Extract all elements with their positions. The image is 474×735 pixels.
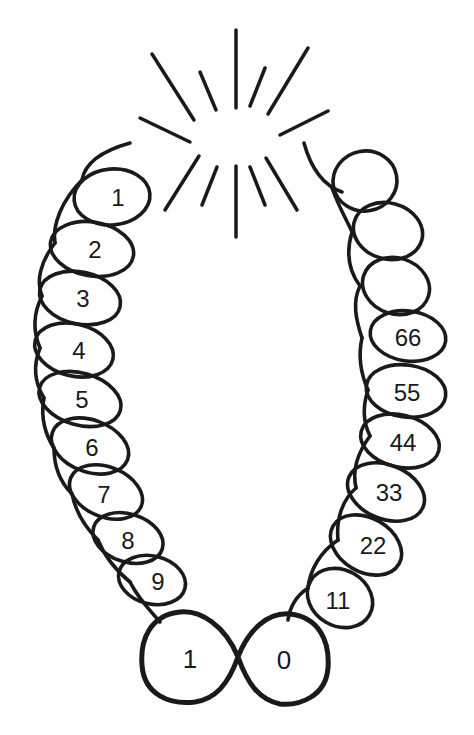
figure-eight (142, 612, 328, 704)
loop-label-left-8: 8 (121, 527, 134, 554)
loop-label-left-3: 3 (76, 285, 89, 312)
loop-label-bottom-1: 1 (183, 644, 197, 674)
loop-label-left-6: 6 (85, 434, 98, 461)
diagram-canvas: 1 2 3 4 5 6 7 8 9 1 0 66 55 44 (0, 0, 474, 735)
loop-label-left-5: 5 (75, 386, 88, 413)
loop-label-right-33: 33 (376, 479, 403, 506)
left-coil (29, 143, 191, 622)
loop-label-left-7: 7 (97, 481, 110, 508)
right-coil (288, 143, 449, 639)
loop-label-right-66: 66 (395, 324, 422, 351)
loop-label-left-4: 4 (72, 337, 85, 364)
loop-label-bottom-0: 0 (277, 645, 291, 675)
loop-label-right-22: 22 (360, 532, 387, 559)
loop-label-left-9: 9 (151, 568, 164, 595)
loop-label-left-1: 1 (111, 184, 124, 211)
loop-label-right-55: 55 (394, 379, 421, 406)
loop-label-right-44: 44 (390, 429, 417, 456)
coil-diagram: 1 2 3 4 5 6 7 8 9 1 0 66 55 44 (0, 0, 474, 735)
loop-label-right-11: 11 (326, 587, 351, 614)
loop-label-left-2: 2 (88, 236, 101, 263)
starburst-icon (140, 30, 328, 237)
